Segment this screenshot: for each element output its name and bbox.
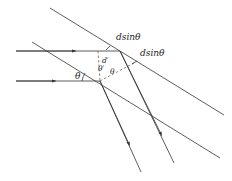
reflected-ray-bottom-arrow xyxy=(100,81,129,144)
crystal-plane-bottom xyxy=(32,42,220,158)
path-diff-marker-right xyxy=(132,61,137,64)
label-dsin-theta-top: dsinθ xyxy=(116,32,141,42)
label-dsin-theta-right: dsinθ xyxy=(140,48,165,58)
path-diff-marker-top xyxy=(106,46,110,50)
perpendicular-dashed-line xyxy=(100,63,134,81)
bragg-diagram: dsinθ dsinθ d′ θ′ θ θ xyxy=(0,0,232,181)
label-theta-incident: θ xyxy=(75,71,81,81)
label-theta-inner: θ xyxy=(110,67,115,76)
crystal-plane-top xyxy=(50,8,224,115)
label-theta-prime: θ′ xyxy=(98,64,105,73)
